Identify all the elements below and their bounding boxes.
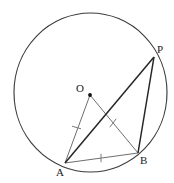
geometry-canvas bbox=[0, 0, 174, 183]
circle-outline bbox=[14, 13, 167, 172]
geometry-diagram: O P A B bbox=[0, 0, 174, 183]
label-point-P: P bbox=[157, 44, 163, 55]
label-point-A: A bbox=[56, 167, 64, 178]
segment-OA bbox=[65, 95, 90, 163]
segment-PB bbox=[138, 57, 154, 153]
tick-mark-OA bbox=[72, 126, 81, 129]
label-center-O: O bbox=[76, 83, 84, 94]
center-point-dot bbox=[88, 93, 92, 97]
segment-AP bbox=[65, 57, 154, 163]
label-point-B: B bbox=[140, 155, 147, 166]
